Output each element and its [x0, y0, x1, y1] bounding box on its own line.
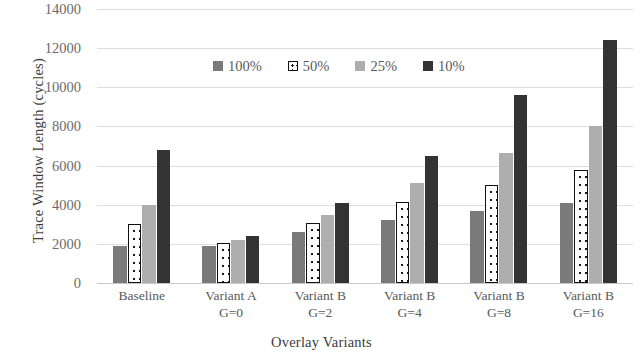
gridline	[97, 283, 633, 284]
y-axis-tick-label: 4000	[19, 198, 81, 213]
x-axis-tick-label-line1: Variant A	[205, 288, 256, 303]
bar	[574, 170, 588, 284]
x-axis-tick-labels: BaselineVariant AG=0Variant BG=2Variant …	[97, 287, 633, 329]
bar	[603, 40, 617, 283]
bar-group	[276, 9, 365, 283]
bar	[246, 236, 260, 283]
legend-item[interactable]: 25%	[355, 58, 397, 75]
legend-swatch-icon	[355, 61, 365, 71]
legend-item[interactable]: 100%	[213, 58, 262, 75]
bar-group	[365, 9, 454, 283]
bar	[589, 126, 603, 283]
bar-chart: Trace Window Length (cycles) 02000400060…	[0, 0, 643, 359]
legend: 100%50%25%10%	[213, 56, 465, 76]
bar-group	[186, 9, 275, 283]
bar-group	[97, 9, 186, 283]
bar	[321, 215, 335, 284]
x-axis-tick-label-line2: G=0	[186, 304, 275, 321]
legend-item[interactable]: 50%	[288, 58, 330, 75]
legend-swatch-icon	[213, 61, 223, 71]
bar	[381, 220, 395, 283]
x-axis-tick-label-line2: G=16	[544, 304, 633, 321]
x-axis-tick-label-line1: Variant B	[384, 288, 435, 303]
bar	[425, 156, 439, 283]
bar	[157, 150, 171, 283]
y-axis-tick-label: 14000	[19, 2, 81, 17]
y-axis-tick-label: 2000	[19, 237, 81, 252]
y-axis-tick-label: 10000	[19, 80, 81, 95]
y-axis-tick-label: 6000	[19, 159, 81, 174]
x-axis-tick-label-line1: Variant B	[473, 288, 524, 303]
bar	[485, 185, 499, 283]
bar	[470, 211, 484, 283]
legend-swatch-icon	[423, 61, 433, 71]
legend-swatch-icon	[288, 61, 298, 71]
bar	[514, 95, 528, 283]
bar	[202, 246, 216, 283]
legend-label: 10%	[438, 58, 465, 75]
bar	[113, 246, 127, 283]
bar	[499, 153, 513, 283]
x-axis-tick-label-line2: G=4	[365, 304, 454, 321]
bar	[217, 243, 231, 283]
y-axis-tick-label: 12000	[19, 41, 81, 56]
bar	[292, 232, 306, 283]
bar	[142, 205, 156, 283]
x-axis-tick-label: Variant BG=8	[454, 287, 543, 321]
y-axis-tick-label: 0	[19, 276, 81, 291]
legend-label: 25%	[370, 58, 397, 75]
plot-area: 02000400060008000100001200014000	[97, 9, 633, 283]
legend-item[interactable]: 10%	[423, 58, 465, 75]
x-axis-title: Overlay Variants	[0, 334, 643, 351]
x-axis-tick-label-line1: Variant B	[563, 288, 614, 303]
x-axis-tick-label: Variant AG=0	[186, 287, 275, 321]
legend-label: 100%	[228, 58, 262, 75]
x-axis-tick-label-line2: G=8	[454, 304, 543, 321]
x-axis-tick-label-line1: Variant B	[295, 288, 346, 303]
x-axis-tick-label-line2: G=2	[276, 304, 365, 321]
bar-group	[454, 9, 543, 283]
x-axis-tick-label: Variant BG=16	[544, 287, 633, 321]
bar	[335, 203, 349, 283]
bars-layer	[97, 9, 633, 283]
bar-group	[544, 9, 633, 283]
x-axis-tick-label: Baseline	[97, 287, 186, 304]
bar	[231, 240, 245, 283]
bar	[560, 203, 574, 283]
y-axis-tick-label: 8000	[19, 119, 81, 134]
bar	[396, 202, 410, 283]
x-axis-tick-label-line1: Baseline	[118, 288, 165, 303]
x-axis-tick-label: Variant BG=2	[276, 287, 365, 321]
legend-label: 50%	[303, 58, 330, 75]
x-axis-tick-label: Variant BG=4	[365, 287, 454, 321]
bar	[128, 224, 142, 283]
bar	[410, 183, 424, 283]
bar	[306, 223, 320, 283]
